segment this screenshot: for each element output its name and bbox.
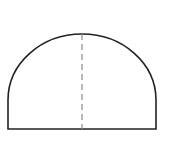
diagram-canvas — [0, 0, 172, 144]
arch-diagram — [0, 0, 172, 144]
